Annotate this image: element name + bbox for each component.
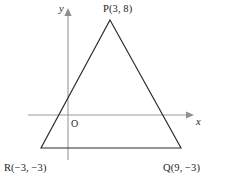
x-axis-label: x <box>196 117 201 128</box>
y-axis-label: y <box>59 4 64 15</box>
triangle-pqr <box>41 20 181 148</box>
coordinate-plane <box>0 0 225 180</box>
vertex-label-p: P(3, 8) <box>103 4 132 15</box>
geometry-figure: P(3, 8) Q(9, −3) R(−3, −3) O x y <box>0 0 225 180</box>
y-axis-arrowhead <box>64 8 71 16</box>
vertex-label-q: Q(9, −3) <box>163 163 200 174</box>
x-axis-arrowhead <box>186 111 194 118</box>
vertex-label-r: R(−3, −3) <box>4 163 47 174</box>
origin-label: O <box>71 119 78 129</box>
